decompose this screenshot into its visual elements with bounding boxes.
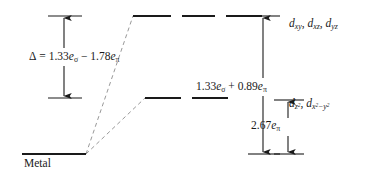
mid-term2-sub: π	[263, 85, 267, 94]
orbital-set-upper-label: dxy, dxz, dyz	[289, 18, 338, 31]
upper-o3-sub: yz	[331, 22, 338, 31]
delta-expression-label: Δ = 1.33eσ − 1.78eπ	[29, 51, 120, 64]
lower-o2-sub-y-exp: 2	[327, 102, 330, 108]
correlation-lines	[86, 16, 145, 154]
delta-term2-coeff: 1.78	[90, 50, 110, 62]
metal-label: Metal	[24, 158, 51, 170]
lower-o2-sub: x2−y2	[312, 102, 330, 111]
metal-to-upper-line	[86, 16, 133, 154]
pi-coeff: 2.67	[251, 119, 271, 131]
delta-term2-sub: π	[116, 55, 120, 64]
pi-energy-expression-label: 2.67eπ	[251, 120, 280, 133]
energy-level-diagram: Δ = 1.33eσ − 1.78eπ 1.33eσ + 0.89eπ 2.67…	[0, 0, 373, 186]
mid-term1-coeff: 1.33	[196, 80, 216, 92]
upper-o1-sub: xy	[295, 22, 302, 31]
delta-term1-coeff: 1.33	[49, 50, 69, 62]
total-energy-expression-label: 1.33eσ + 0.89eπ	[196, 81, 267, 94]
metal-to-lower-line	[86, 98, 145, 154]
mid-term2-coeff: 0.89	[238, 80, 258, 92]
pi-sub: π	[276, 124, 280, 133]
orbital-set-lower-label: dz2, dx2−y2	[289, 98, 329, 111]
